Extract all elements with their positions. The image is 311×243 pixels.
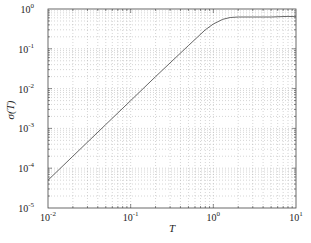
tick-marks xyxy=(48,9,296,208)
x-axis-label: T xyxy=(169,222,176,234)
y-tick-label: 10-1 xyxy=(18,42,34,55)
x-tick-label: 10-1 xyxy=(123,210,139,223)
sigma-curve xyxy=(48,16,296,180)
x-tick-label: 10-2 xyxy=(40,210,56,223)
y-tick-label: 10-2 xyxy=(18,82,34,95)
y-tick-label: 10-3 xyxy=(18,121,34,134)
log-log-chart: 10-210-1100101 10010-110-210-310-410-5 T… xyxy=(0,0,311,243)
plot-frame xyxy=(48,9,296,208)
x-tick-label: 101 xyxy=(289,210,303,223)
y-tick-label: 10-4 xyxy=(18,161,34,174)
y-tick-labels: 10010-110-210-310-410-5 xyxy=(18,2,34,214)
y-tick-label: 100 xyxy=(21,2,35,15)
grid-lines xyxy=(48,9,296,208)
x-tick-label: 100 xyxy=(207,210,221,223)
y-tick-label: 10-5 xyxy=(18,201,34,214)
y-axis-label: σ(T) xyxy=(4,100,17,119)
